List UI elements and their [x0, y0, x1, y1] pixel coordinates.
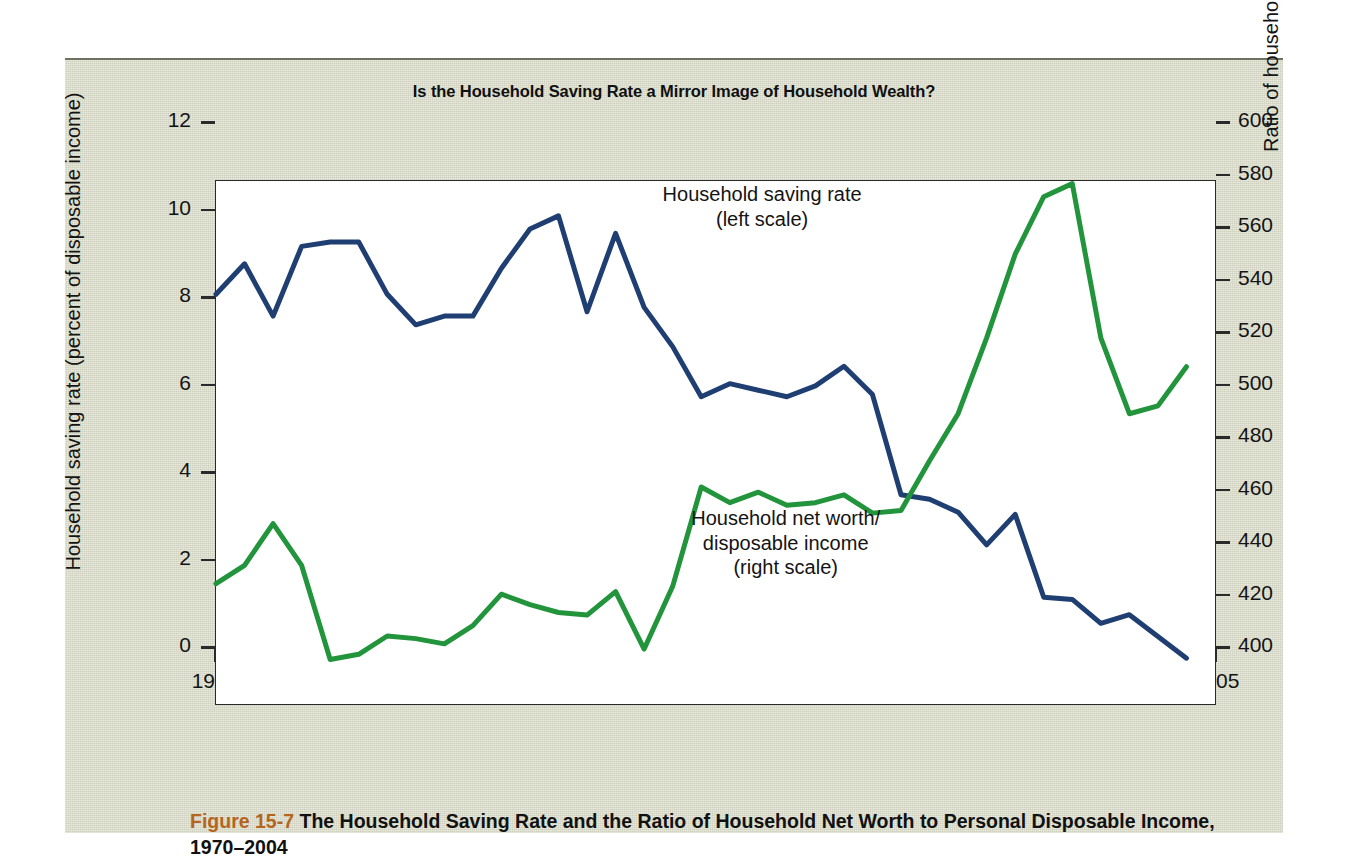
y-tick-label-right: 420 — [1238, 581, 1308, 605]
y-tick-left — [201, 296, 215, 299]
y-tick-label-right: 540 — [1238, 266, 1308, 290]
y-tick-left — [201, 471, 215, 474]
y-tick-left — [201, 384, 215, 387]
figure-number: Figure 15-7 — [190, 810, 294, 832]
y-tick-label-right: 580 — [1238, 161, 1308, 185]
y-tick-right — [1216, 331, 1230, 334]
y-tick-label-left: 12 — [131, 108, 191, 132]
y-tick-label-right: 600 — [1238, 108, 1308, 132]
y-tick-left — [201, 121, 215, 124]
y-tick-label-left: 2 — [131, 546, 191, 570]
y-tick-label-right: 460 — [1238, 476, 1308, 500]
y-tick-label-left: 10 — [131, 196, 191, 220]
figure-caption: Figure 15-7 The Household Saving Rate an… — [190, 808, 1260, 857]
figure-root: Is the Household Saving Rate a Mirror Im… — [0, 0, 1356, 857]
y-tick-right — [1216, 384, 1230, 387]
y-tick-right — [1216, 594, 1230, 597]
y-tick-right — [1216, 279, 1230, 282]
plot-area — [215, 180, 1216, 705]
y-tick-label-right: 400 — [1238, 633, 1308, 657]
y-tick-label-left: 4 — [131, 458, 191, 482]
y-tick-right — [1216, 489, 1230, 492]
y-tick-right — [1216, 646, 1230, 649]
figure-panel: Is the Household Saving Rate a Mirror Im… — [65, 58, 1283, 833]
y-tick-label-right: 500 — [1238, 371, 1308, 395]
saving-rate-line — [216, 216, 1186, 658]
saving-rate-annotation: Household saving rate(left scale) — [663, 182, 862, 231]
y-tick-right — [1216, 541, 1230, 544]
y-axis-left-title: Household saving rate (percent of dispos… — [62, 52, 85, 612]
chart-title: Is the Household Saving Rate a Mirror Im… — [65, 82, 1283, 101]
series-lines — [216, 181, 1215, 704]
y-tick-left — [201, 559, 215, 562]
annotation-line: Household saving rate — [663, 182, 862, 206]
figure-caption-text: The Household Saving Rate and the Ratio … — [190, 810, 1215, 857]
y-tick-label-right: 560 — [1238, 213, 1308, 237]
y-tick-right — [1216, 174, 1230, 177]
annotation-line: Household net worth/ — [691, 506, 880, 530]
y-tick-label-right: 440 — [1238, 528, 1308, 552]
annotation-line: (right scale) — [691, 555, 880, 579]
y-tick-right — [1216, 121, 1230, 124]
y-tick-left — [201, 646, 215, 649]
y-tick-label-left: 6 — [131, 371, 191, 395]
annotation-line: (left scale) — [663, 207, 862, 231]
y-tick-left — [201, 209, 215, 212]
y-tick-label-left: 8 — [131, 283, 191, 307]
y-tick-label-left: 0 — [131, 633, 191, 657]
net-worth-annotation: Household net worth/disposable income(ri… — [691, 506, 880, 579]
y-tick-label-right: 480 — [1238, 423, 1308, 447]
y-tick-right — [1216, 436, 1230, 439]
annotation-line: disposable income — [691, 531, 880, 555]
y-tick-label-right: 520 — [1238, 318, 1308, 342]
y-tick-right — [1216, 226, 1230, 229]
